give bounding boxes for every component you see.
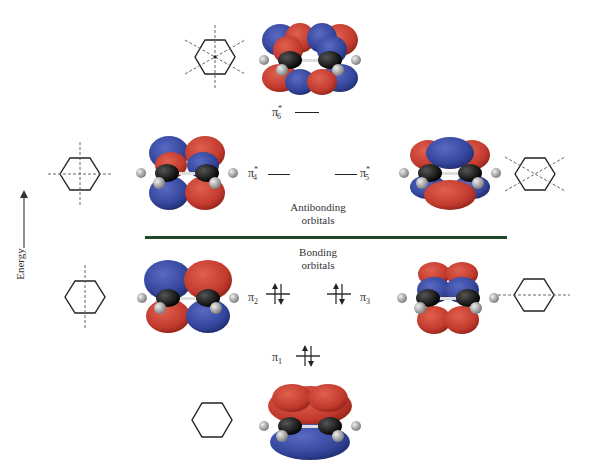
energy-arrow-icon — [18, 190, 30, 250]
orbital-label-pi1: π1 — [272, 350, 282, 366]
orbital-model-pi6 — [255, 20, 365, 100]
orbital-model-pi5 — [395, 133, 505, 213]
orbital-label-pi5: π*5 — [360, 165, 369, 182]
electron-pair-pi2-icon — [265, 282, 291, 306]
energy-level-pi5 — [335, 174, 357, 175]
orbital-label-pi2: π2 — [248, 290, 258, 306]
orbital-model-pi1 — [255, 375, 365, 465]
electron-pair-pi1-icon — [295, 344, 321, 368]
orbital-label-pi3: π3 — [360, 290, 370, 306]
antibonding-caption: Antibonding orbitals — [258, 201, 378, 227]
orbital-model-pi3 — [398, 258, 498, 338]
electron-pair-pi3-icon — [326, 282, 352, 306]
orbital-label-pi4: π*4 — [248, 165, 257, 182]
orbital-label-pi6: π*6 — [272, 104, 281, 121]
hexagon-nodal-pi5-icon — [500, 142, 570, 206]
hexagon-nodal-pi3-icon — [498, 270, 570, 320]
bonding-antibonding-divider — [145, 236, 507, 239]
orbital-model-pi2 — [128, 258, 248, 338]
hexagon-nodal-pi6-icon — [180, 22, 250, 92]
energy-level-pi4 — [268, 174, 290, 175]
hexagon-nodal-pi4-icon — [48, 142, 112, 206]
energy-axis: Energy — [18, 190, 30, 285]
orbital-model-pi4 — [132, 133, 242, 213]
hexagon-pi1-icon — [190, 400, 234, 440]
hexagon-nodal-pi2-icon — [60, 262, 110, 332]
energy-axis-label: Energy — [14, 248, 26, 280]
energy-level-pi6 — [295, 112, 319, 113]
bonding-caption: Bonding orbitals — [258, 246, 378, 272]
